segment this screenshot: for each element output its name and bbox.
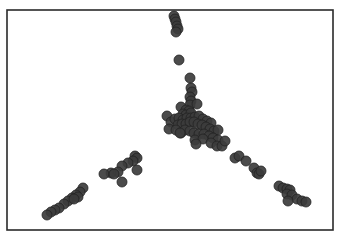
data-point <box>220 136 230 146</box>
data-point <box>109 169 119 179</box>
data-point <box>42 210 52 220</box>
data-point <box>117 177 127 187</box>
data-point <box>301 197 311 207</box>
data-point <box>185 73 195 83</box>
data-point <box>191 139 201 149</box>
data-point <box>171 27 181 37</box>
data-point <box>174 55 184 65</box>
data-point <box>256 166 266 176</box>
scatter-chart <box>0 0 339 244</box>
data-point <box>175 128 185 138</box>
data-point <box>99 169 109 179</box>
data-point <box>192 99 202 109</box>
data-point <box>132 165 142 175</box>
data-point <box>69 194 79 204</box>
data-point <box>283 196 293 206</box>
data-point <box>241 156 251 166</box>
